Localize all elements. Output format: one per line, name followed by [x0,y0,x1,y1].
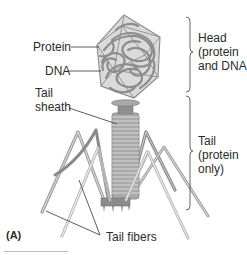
label-head: Head [198,31,227,45]
label-tail: Tail [198,134,216,148]
tail-sheath [112,113,139,199]
label-tail-only: only) [198,162,224,176]
label-tail-fibers: Tail fibers [106,230,157,244]
label-tail-protein: (protein [198,148,239,162]
label-tail-sheath-2: sheath [35,100,71,114]
leader-tail-sheath [69,108,117,124]
label-protein: Protein [33,40,71,54]
label-dna: DNA [45,64,70,78]
label-head-dna: and DNA) [198,59,247,73]
collar [112,100,140,106]
panel-label: (A) [6,229,21,241]
head-capsid [97,15,160,98]
divider-rule [4,251,68,252]
label-head-protein: (protein [198,45,239,59]
label-tail-sheath-1: Tail [35,86,53,100]
brace-head [186,17,193,92]
